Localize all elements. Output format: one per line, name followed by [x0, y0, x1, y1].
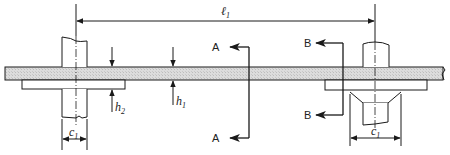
c1-left-label: c1: [69, 125, 78, 141]
c1-right-label: c1: [371, 124, 380, 140]
section-a-top-label: A: [212, 41, 220, 53]
h1-label: h1: [176, 94, 186, 110]
h2-label: h2: [115, 100, 125, 116]
plate: [5, 67, 443, 80]
section-a-a: [230, 47, 249, 138]
lower-flange-right: [325, 80, 427, 90]
diagram-canvas: ℓ1 h2 h1 c1 c1 A A B B: [0, 0, 450, 155]
lower-flange-left: [22, 80, 125, 89]
span-label: ℓ1: [221, 4, 230, 20]
beam-drawing: ℓ1 h2 h1 c1 c1 A A B B: [0, 0, 450, 155]
section-b-top-label: B: [304, 37, 311, 49]
section-a-bottom-label: A: [212, 132, 220, 144]
section-b-bottom-label: B: [304, 109, 311, 121]
